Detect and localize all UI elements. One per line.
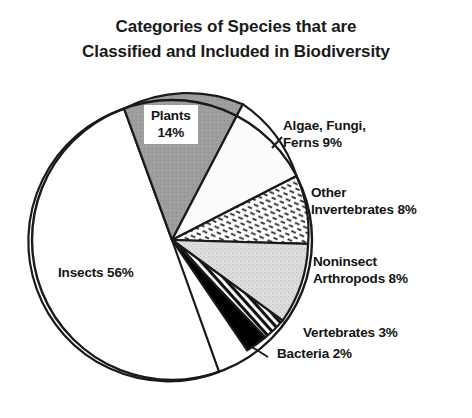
bacteria-label-text: Bacteria 2% bbox=[277, 345, 352, 362]
slice-label-vertebrates: Vertebrates 3% bbox=[303, 324, 398, 341]
slice-label-plants: Plants 14% bbox=[144, 105, 198, 144]
noninsect-label-line-1: Noninsect bbox=[313, 253, 408, 270]
plants-label-name: Plants bbox=[151, 107, 191, 124]
noninsect-label-line-2: Arthropods 8% bbox=[313, 270, 408, 287]
slice-label-other-invertebrates: Other Invertebrates 8% bbox=[311, 184, 417, 218]
slice-label-insects: Insects 56% bbox=[58, 264, 134, 281]
vertebrates-label-text: Vertebrates 3% bbox=[303, 324, 398, 341]
slice-label-noninsect-arthropods: Noninsect Arthropods 8% bbox=[313, 253, 408, 287]
insects-label-text: Insects 56% bbox=[58, 264, 134, 281]
other-invertebrates-label-line-2: Invertebrates 8% bbox=[311, 201, 417, 218]
pie-chart-figure: Categories of Species that are Classifie… bbox=[0, 0, 472, 418]
slice-label-algae-fungi-ferns: Algae, Fungi, Ferns 9% bbox=[283, 117, 366, 151]
other-invertebrates-label-line-1: Other bbox=[311, 184, 417, 201]
algae-label-line-1: Algae, Fungi, bbox=[283, 117, 366, 134]
slice-label-bacteria: Bacteria 2% bbox=[277, 345, 352, 362]
algae-label-line-2: Ferns 9% bbox=[283, 134, 366, 151]
plants-label-value: 14% bbox=[151, 124, 191, 141]
